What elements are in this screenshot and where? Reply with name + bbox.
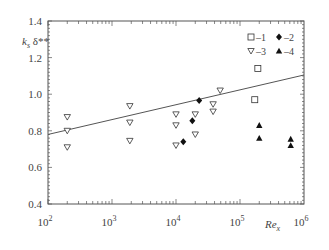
data-point-series-3 bbox=[192, 132, 198, 138]
data-point-series-4 bbox=[288, 142, 294, 148]
y-tick-label: 1.2 bbox=[28, 52, 42, 64]
data-point-series-3 bbox=[64, 115, 70, 121]
data-point-series-3 bbox=[210, 102, 216, 108]
data-point-series-3 bbox=[173, 143, 179, 149]
data-point-series-3 bbox=[127, 138, 133, 144]
x-tick-label: 105 bbox=[230, 214, 245, 228]
scatter-chart: 0.40.60.81.01.21.4102103104105106 –1–2–3… bbox=[0, 0, 329, 250]
data-point-series-2 bbox=[196, 97, 202, 104]
data-points bbox=[64, 66, 294, 151]
y-tick-label: 0.6 bbox=[28, 161, 42, 173]
x-tick-label: 102 bbox=[38, 214, 53, 228]
data-point-series-3 bbox=[127, 120, 133, 126]
legend-marker-3 bbox=[248, 49, 254, 55]
x-tick-label: 103 bbox=[102, 214, 117, 228]
data-point-series-3 bbox=[173, 123, 179, 129]
y-tick-label: 1.0 bbox=[28, 88, 42, 100]
legend: –1–2–3–4 bbox=[248, 32, 294, 57]
x-tick-label: 106 bbox=[294, 214, 309, 228]
data-point-series-2 bbox=[189, 117, 195, 124]
legend-label-1: –1 bbox=[255, 32, 266, 43]
data-point-series-3 bbox=[64, 128, 70, 134]
legend-marker-2 bbox=[276, 34, 282, 41]
y-tick-label: 0.8 bbox=[28, 125, 42, 137]
legend-label-3: –3 bbox=[255, 46, 266, 57]
legend-label-4: –4 bbox=[283, 46, 294, 57]
data-point-series-3 bbox=[64, 145, 70, 151]
x-tick-label: 104 bbox=[166, 214, 181, 228]
data-point-series-3 bbox=[127, 104, 133, 110]
data-point-series-3 bbox=[210, 109, 216, 115]
legend-label-2: –2 bbox=[283, 32, 294, 43]
y-axis-title: ks δ** bbox=[22, 35, 49, 50]
y-tick-label: 1.4 bbox=[28, 15, 42, 27]
data-point-series-2 bbox=[180, 138, 186, 145]
data-point-series-3 bbox=[217, 88, 223, 94]
data-point-series-3 bbox=[192, 112, 198, 118]
data-point-series-3 bbox=[173, 112, 179, 118]
data-point-series-4 bbox=[288, 136, 294, 142]
legend-marker-1 bbox=[248, 34, 254, 40]
data-point-series-1 bbox=[255, 66, 261, 72]
data-point-series-1 bbox=[252, 97, 258, 103]
data-point-series-4 bbox=[256, 135, 262, 141]
legend-marker-4 bbox=[276, 48, 282, 54]
tick-labels: 0.40.60.81.01.21.4102103104105106 bbox=[28, 15, 308, 228]
y-tick-label: 0.4 bbox=[28, 198, 42, 210]
data-point-series-4 bbox=[256, 122, 262, 128]
x-axis-title: Rex bbox=[264, 218, 281, 233]
